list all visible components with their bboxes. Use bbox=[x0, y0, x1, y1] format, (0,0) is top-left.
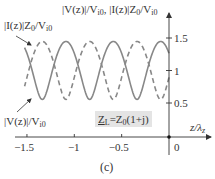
y-label-part: |V(z)|/V bbox=[62, 3, 98, 15]
load-impedance-label: ZL=Z0(1+j) bbox=[95, 111, 152, 127]
label-sub: z bbox=[202, 126, 205, 135]
label-part: Z bbox=[98, 113, 105, 125]
curves bbox=[25, 41, 169, 99]
voltage-curve-label: |V(z)|/Vi0 bbox=[4, 115, 46, 127]
panel-label: (c) bbox=[100, 161, 113, 173]
y-axis-label: |V(z)|/Vi0, |I(z)|Z0/Vi0 bbox=[62, 3, 158, 15]
y-label-sub: i0 bbox=[151, 8, 157, 17]
x-axis-label: z/λz bbox=[190, 121, 205, 133]
y-label-part: , |I(z)|Z bbox=[104, 3, 137, 15]
label-sub: i0 bbox=[40, 120, 46, 129]
current-annotation-arrow bbox=[16, 36, 31, 45]
label-part: |I(z)|Z bbox=[4, 19, 31, 31]
label-part: z/λ bbox=[190, 121, 202, 133]
label-part: /V bbox=[35, 19, 46, 31]
y-tick-label: 1.5 bbox=[174, 32, 188, 44]
current-curve-label: |I(z)|Z0/Vi0 bbox=[4, 19, 52, 31]
label-part: (1+j) bbox=[127, 113, 149, 125]
origin-dot bbox=[167, 135, 171, 139]
label-part: |V(z)|/V bbox=[4, 115, 40, 127]
x-tick-label: −1.5 bbox=[14, 141, 34, 153]
x-tick-label: −0.5 bbox=[109, 141, 129, 153]
label-part: =Z bbox=[110, 113, 123, 125]
label-sub: i0 bbox=[46, 24, 52, 33]
voltage-annotation-arrow bbox=[17, 99, 31, 112]
y-label-part: /V bbox=[140, 3, 151, 15]
x-tick-label: −1 bbox=[68, 141, 80, 153]
x-tick-label: 0 bbox=[174, 141, 180, 153]
y-tick-label: 1 bbox=[174, 65, 180, 77]
y-tick-label: 0.5 bbox=[174, 97, 188, 109]
